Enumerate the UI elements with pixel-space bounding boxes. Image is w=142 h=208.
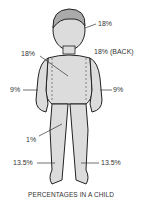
right-arm bbox=[90, 58, 102, 112]
label-right-leg: 13.5% bbox=[101, 159, 121, 166]
right-leg bbox=[70, 104, 88, 184]
label-right-arm: 9% bbox=[113, 86, 123, 93]
torso bbox=[46, 55, 92, 104]
label-back: 18% (BACK) bbox=[94, 48, 134, 55]
label-head-front: 18% bbox=[98, 20, 112, 27]
child-body-figure bbox=[0, 0, 142, 208]
left-leg bbox=[50, 104, 68, 184]
left-arm bbox=[36, 58, 48, 112]
diagram-caption: PERCENTAGES IN A CHILD bbox=[0, 191, 142, 198]
label-left-arm: 9% bbox=[10, 86, 20, 93]
label-trunk-front: 18% bbox=[21, 50, 35, 57]
label-left-leg: 13.5% bbox=[13, 159, 33, 166]
label-genitals: 1% bbox=[26, 136, 36, 143]
